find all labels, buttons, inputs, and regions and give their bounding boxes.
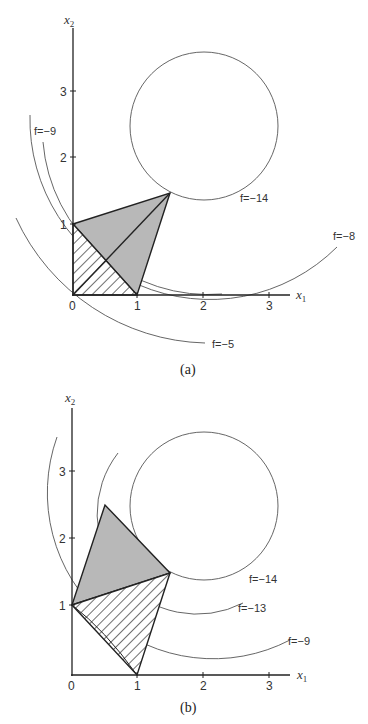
contour-label-f-9-b: f=−9 xyxy=(288,635,310,647)
y-axis-label-b: x2 xyxy=(64,390,75,407)
y-tick-2-a: 2 xyxy=(60,151,67,165)
x-tick-1-b: 1 xyxy=(134,679,141,693)
caption-a: (a) xyxy=(180,362,196,378)
x-tick-3-b: 3 xyxy=(266,679,273,693)
contour-label-f-14-b: f=−14 xyxy=(249,573,277,585)
contour-circle-f-14-a xyxy=(130,52,278,200)
contour-label-f-14-a: f=−14 xyxy=(240,192,268,204)
x-axis-label-b: x1 xyxy=(296,667,307,684)
x-tick-0-a: 0 xyxy=(69,299,76,313)
contour-arc-f-9-b xyxy=(47,437,290,659)
contour-label-f-8-a: f=−8 xyxy=(333,230,355,242)
contour-label-f-13-b: f=−13 xyxy=(238,602,266,614)
y-tick-2-b: 2 xyxy=(59,532,66,546)
y-axis-label-a: x2 xyxy=(63,12,74,29)
x-tick-2-a: 2 xyxy=(200,299,207,313)
x-tick-0-b: 0 xyxy=(68,679,75,693)
x-axis-label-a: x1 xyxy=(295,287,306,304)
figure-a: 0 1 2 3 1 2 3 x2 x1 f=−9 f=−14 f=−8 f=−5… xyxy=(16,12,355,378)
figure-canvas: 0 1 2 3 1 2 3 x2 x1 f=−9 f=−14 f=−8 f=−5… xyxy=(0,0,368,724)
y-tick-1-a: 1 xyxy=(60,218,67,232)
caption-b: (b) xyxy=(180,700,197,716)
y-tick-3-b: 3 xyxy=(59,465,66,479)
contour-label-f-5-a: f=−5 xyxy=(212,338,234,350)
y-tick-3-a: 3 xyxy=(60,85,67,99)
figure-b: 0 1 2 3 1 2 3 x2 x1 f=−14 f=−13 f=−9 (b) xyxy=(47,390,310,716)
contour-label-f-9-a: f=−9 xyxy=(34,125,56,137)
x-tick-3-a: 3 xyxy=(266,299,273,313)
x-tick-2-b: 2 xyxy=(200,679,207,693)
y-tick-1-b: 1 xyxy=(59,599,66,613)
x-tick-1-a: 1 xyxy=(134,299,141,313)
